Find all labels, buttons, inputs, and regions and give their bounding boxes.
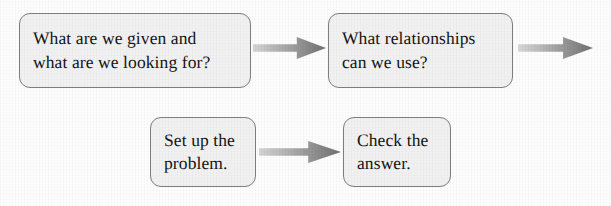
flowchart-node-check-answer[interactable]: Check the answer.	[343, 117, 451, 187]
flowchart-node-given-and-looking-for[interactable]: What are we given and what are we lookin…	[19, 13, 251, 88]
flowchart-canvas: What are we given and what are we lookin…	[0, 0, 611, 206]
flowchart-node-label: What are we given and what are we lookin…	[20, 27, 218, 73]
flowchart-node-relationships[interactable]: What relationships can we use?	[328, 13, 513, 88]
arrow-right-icon	[518, 33, 593, 63]
flowchart-node-label: What relationships can we use?	[329, 27, 484, 73]
arrow-right-icon	[253, 33, 326, 63]
arrow-right-icon	[259, 137, 341, 167]
flowchart-node-label: Set up the problem.	[151, 129, 243, 175]
flowchart-node-set-up-problem[interactable]: Set up the problem.	[150, 117, 256, 187]
flowchart-node-label: Check the answer.	[344, 129, 436, 175]
